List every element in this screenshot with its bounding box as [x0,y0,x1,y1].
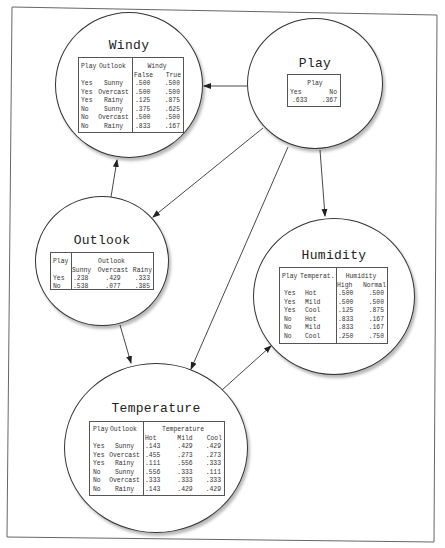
row-play: No [81,106,89,115]
state-no: No [329,89,337,98]
state-false: False [134,72,153,81]
row-play: Yes [93,460,105,469]
prob-value: .500 [135,114,150,123]
prob-value: .333 [170,477,200,486]
prob-value: .333 [206,477,221,486]
row-play: Yes [93,443,105,452]
node-temperature[interactable]: Temperature Play Outlook Yes Sunny Yes O… [64,363,248,533]
row-play: No [93,477,101,486]
row-play: No [81,114,89,123]
prob-value: .500 [338,299,353,308]
row-outlook: Overcast [95,89,132,98]
prob-value: .500 [165,80,180,89]
prob-value: .429 [206,486,221,495]
node-outlook[interactable]: Outlook Play Yes No Outlook Sunny Overca… [35,196,169,326]
row-play: No [93,486,101,495]
row-play: Yes [81,80,93,89]
prob-value: .167 [165,123,180,132]
header-temperature: Temperat. [300,273,335,282]
prob-value: .077 [97,283,129,292]
row-outlook: Overcast [106,477,143,486]
prob-value: .375 [135,106,150,115]
row-temperature: Cool [305,333,320,342]
bayesian-network-diagram: Windy Play Outlook Yes Sunny Yes Overcas… [0,0,445,548]
row-temperature: Mild [305,299,320,308]
prob-value: .429 [170,486,200,495]
prob-value: .833 [338,316,353,325]
header-variable: Play [288,80,342,89]
cpt-table-outlook: Play Yes No Outlook Sunny Overcast Rainy… [50,252,154,290]
row-temperature: Mild [305,324,320,333]
prob-value: .833 [135,123,150,132]
node-title: Outlook [36,233,168,248]
prob-value: .333 [170,469,200,478]
prob-value: .500 [165,89,180,98]
row-outlook: Overcast [95,114,132,123]
header-variable: Windy [131,63,183,72]
header-outlook: Outlook [110,426,137,435]
prob-value: .385 [135,283,150,292]
prob-value: .143 [145,443,160,452]
header-play: Play [282,273,297,282]
row-outlook: Sunny [95,80,132,89]
prob-value: .367 [322,97,337,106]
row-play: No [284,316,292,325]
node-windy[interactable]: Windy Play Outlook Yes Sunny Yes Overcas… [55,12,203,158]
prob-value: .500 [338,290,353,299]
prob-value: .273 [206,452,221,461]
prob-value: .143 [145,486,160,495]
prob-value: .429 [206,443,221,452]
state-true: True [166,72,181,81]
row-play: Yes [284,290,296,299]
prob-value: .167 [369,316,384,325]
state-cool: Cool [207,435,222,444]
row-temperature: Cool [305,307,320,316]
edge-outlook-to-windy [111,160,117,197]
edge-outlook-to-temperature [120,325,131,363]
row-play: No [81,123,89,132]
edge-play-to-humidity [320,150,325,216]
header-variable: Temperature [142,426,224,435]
row-outlook: Rainy [106,460,143,469]
row-play: No [93,469,101,478]
edge-temperature-to-humidity [222,346,271,390]
state-overcast: Overcast [97,267,129,276]
row-play: Yes [284,299,296,308]
prob-value: .500 [135,89,150,98]
row-outlook: Sunny [95,106,132,115]
prob-value: .273 [170,452,200,461]
node-humidity[interactable]: Humidity Play Temperat. Yes Hot Yes Mild… [253,218,415,375]
prob-value: .500 [165,114,180,123]
prob-value: .750 [369,333,384,342]
cpt-table-play: Play Yes No .633 .367 [287,74,341,107]
prob-value: .111 [145,460,160,469]
prob-value: .875 [165,97,180,106]
header-play: Play [93,426,108,435]
prob-value: .250 [338,333,353,342]
header-play: Play [53,258,68,267]
node-title: Humidity [254,248,414,263]
state-rainy: Rainy [133,267,152,276]
prob-value: .500 [369,299,384,308]
prob-value: .500 [135,80,150,89]
node-play[interactable]: Play Play Yes No .633 .367 [247,18,383,149]
prob-value: .556 [170,460,200,469]
row-play: No [284,333,292,342]
node-title: Temperature [65,401,247,416]
node-title: Windy [56,38,202,53]
row-outlook: Rainy [95,97,132,106]
row-play: Yes [93,452,105,461]
prob-value: .500 [369,290,384,299]
prob-value: .833 [338,324,353,333]
row-play: Yes [81,97,93,106]
row-play: Yes [81,89,93,98]
prob-value: .167 [369,324,384,333]
state-high: High [337,282,352,291]
state-normal: Normal [363,282,386,291]
prob-value: .556 [145,469,160,478]
header-outlook: Outlook [99,63,126,72]
cpt-table-temperature: Play Outlook Yes Sunny Yes Overcast Yes … [89,421,225,496]
row-temperature: Hot [305,290,317,299]
state-hot: Hot [145,435,157,444]
prob-value: .625 [165,106,180,115]
